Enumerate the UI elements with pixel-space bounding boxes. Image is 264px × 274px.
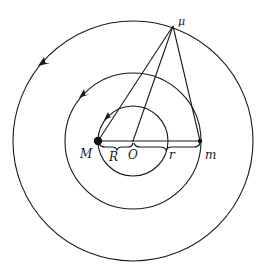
label-R: R	[109, 151, 118, 163]
label-M: M	[80, 148, 92, 160]
label-m: m	[205, 149, 216, 161]
diagram-canvas	[0, 0, 264, 274]
center-O-dot	[132, 140, 134, 142]
orbital-diagram: μ M R O r m	[0, 0, 264, 274]
segment-mu-m	[173, 26, 200, 141]
mass-m-dot	[198, 139, 202, 143]
label-r: r	[169, 149, 175, 161]
mass-M-dot	[94, 137, 102, 145]
arrow-outer-icon	[38, 57, 50, 66]
brace-r	[134, 143, 200, 150]
segment-mu-O	[133, 26, 173, 141]
label-mu: μ	[178, 16, 185, 27]
segment-mu-M	[98, 26, 173, 141]
label-O: O	[128, 149, 138, 161]
